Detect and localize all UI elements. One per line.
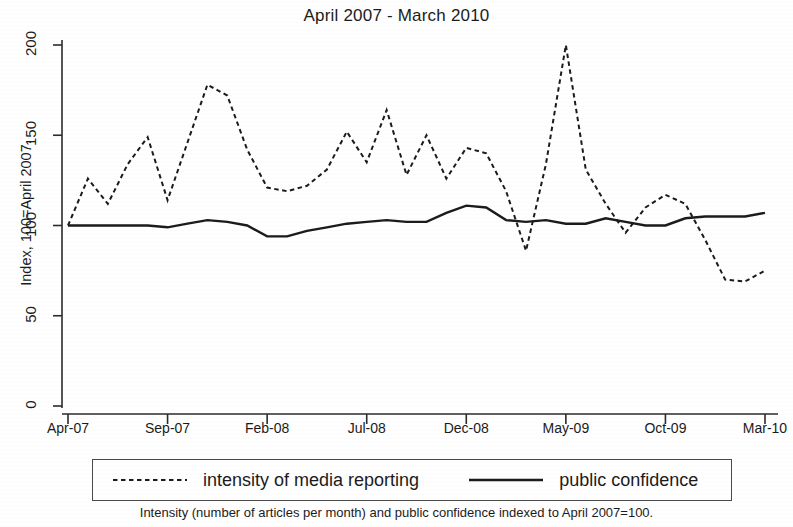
legend-label-intensity: intensity of media reporting — [203, 470, 419, 491]
legend-label-confidence: public confidence — [559, 470, 698, 491]
legend-entry-confidence: public confidence — [467, 470, 698, 491]
series-group — [68, 45, 765, 281]
chart-figure: April 2007 - March 2010 Index, 100=April… — [0, 0, 793, 527]
plot-area — [0, 0, 793, 527]
series-line-public-confidence — [68, 206, 765, 237]
legend-solid-line-icon — [467, 475, 545, 485]
y-axis-ticks — [53, 45, 62, 406]
chart-legend: intensity of media reporting public conf… — [92, 459, 732, 501]
chart-footnote: Intensity (number of articles per month)… — [0, 505, 793, 520]
x-axis-ticks — [68, 414, 765, 424]
axes — [53, 40, 778, 424]
series-line-intensity-of-media-reporting — [68, 45, 765, 281]
legend-dashed-line-icon — [111, 475, 189, 485]
legend-entry-intensity: intensity of media reporting — [111, 470, 419, 491]
